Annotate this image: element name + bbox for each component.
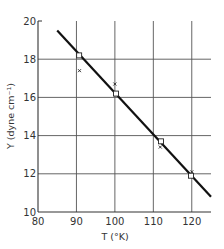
data-series (57, 31, 211, 197)
y-tick-label: 10 (23, 207, 36, 218)
axes (38, 21, 211, 212)
y-tick-label: 12 (23, 168, 36, 179)
x-tick-label: 90 (70, 216, 83, 227)
x-tick-label: 120 (182, 216, 201, 227)
y-tick-label: 20 (23, 16, 36, 27)
chart: 8090100110120101214161820 T (°K) Y (dyne… (0, 0, 224, 249)
cross-marker (159, 146, 162, 149)
square-marker (159, 139, 164, 144)
x-axis-label: T (°K) (100, 231, 128, 242)
square-marker (189, 173, 194, 178)
cross-marker (78, 69, 81, 72)
y-tick-label: 18 (23, 54, 36, 65)
y-tick-label: 14 (23, 130, 36, 141)
grid-lines (38, 21, 211, 212)
x-tick-label: 80 (32, 216, 45, 227)
y-axis-label: Y (dyne cm⁻¹) (5, 83, 16, 150)
x-tick-label: 110 (144, 216, 163, 227)
y-tick-label: 16 (23, 92, 36, 103)
tick-labels: 8090100110120101214161820 (23, 16, 201, 228)
square-marker (114, 91, 119, 96)
x-tick-label: 100 (105, 216, 124, 227)
square-marker (77, 53, 82, 58)
